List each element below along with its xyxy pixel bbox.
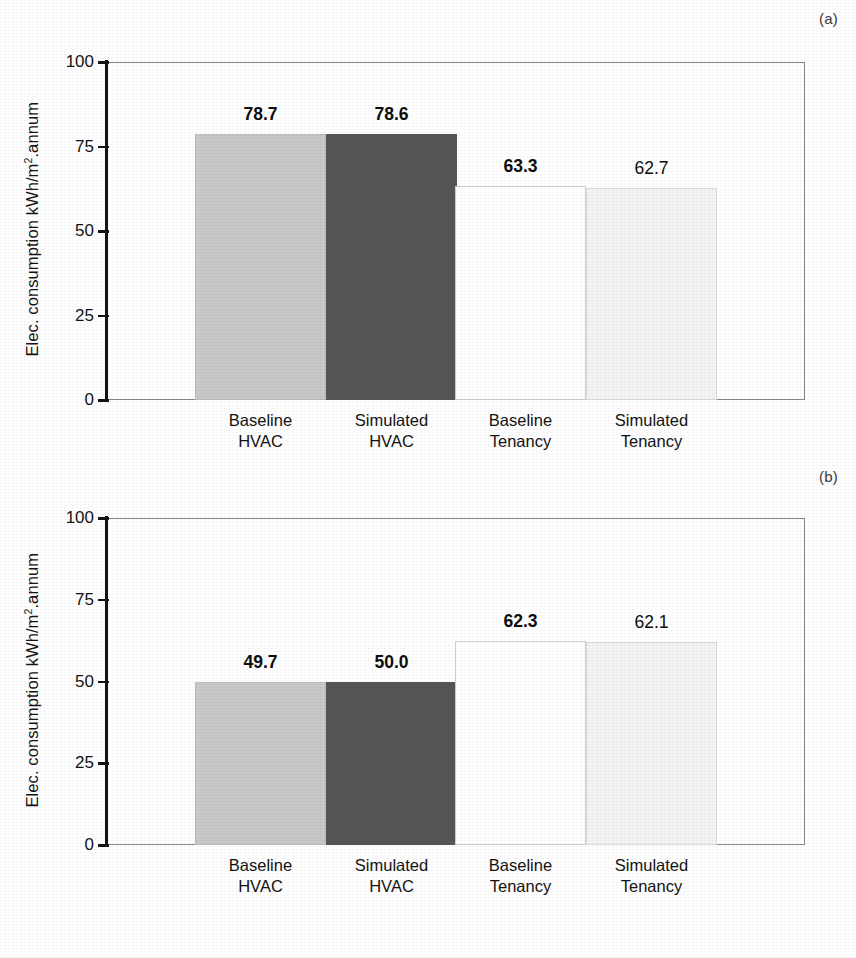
chart-panel-b: (b) Elec. consumption kWh/m2.annum 100 7… — [0, 458, 856, 958]
value-label-baseline-hvac: 49.7 — [195, 652, 326, 673]
y-tick-label-b-75: 75 — [48, 590, 94, 610]
y-axis-title-superscript-b: 2 — [22, 608, 34, 614]
figure-root: (a) Elec. consumption kWh/m2.annum 100 7… — [0, 0, 856, 958]
y-tick-label-a-100: 100 — [48, 52, 94, 72]
y-axis-title-text-b: Elec. consumption kWh/m — [23, 614, 41, 807]
value-label-simulated-hvac: 78.6 — [326, 104, 457, 125]
bar-baseline-hvac[interactable] — [195, 682, 326, 845]
panel-label-a: (a) — [819, 10, 838, 27]
x-label-simulated-tenancy: SimulatedTenancy — [572, 855, 731, 897]
y-tick-label-a-0: 0 — [48, 390, 94, 410]
value-label-simulated-tenancy: 62.7 — [586, 158, 717, 179]
y-axis-title-tail-b: .annum — [23, 552, 41, 608]
bar-baseline-hvac[interactable] — [195, 134, 326, 400]
y-tick-label-a-50: 50 — [48, 221, 94, 241]
y-tick-label-b-50: 50 — [48, 672, 94, 692]
y-tick-label-b-0: 0 — [48, 835, 94, 855]
bar-simulated-hvac[interactable] — [326, 682, 457, 846]
value-label-baseline-hvac: 78.7 — [195, 104, 326, 125]
value-label-simulated-tenancy: 62.1 — [586, 612, 717, 633]
y-axis-title-tail-a: .annum — [23, 102, 41, 158]
value-label-simulated-hvac: 50.0 — [326, 652, 457, 673]
y-tick-label-a-25: 25 — [48, 306, 94, 326]
y-tick-label-b-100: 100 — [48, 508, 94, 528]
value-label-baseline-tenancy: 63.3 — [455, 156, 586, 177]
y-axis-title-b: Elec. consumption kWh/m2.annum — [22, 510, 43, 850]
y-tick-label-b-25: 25 — [48, 753, 94, 773]
bar-simulated-hvac[interactable] — [326, 134, 457, 400]
y-axis-title-a: Elec. consumption kWh/m2.annum — [22, 59, 43, 399]
bar-simulated-tenancy[interactable] — [586, 188, 717, 400]
y-axis-title-text-a: Elec. consumption kWh/m — [23, 164, 41, 357]
x-label-simulated-tenancy: SimulatedTenancy — [572, 410, 731, 452]
bar-group-b — [107, 518, 805, 845]
bar-baseline-tenancy[interactable] — [455, 641, 586, 845]
y-axis-title-superscript-a: 2 — [22, 158, 34, 164]
value-label-baseline-tenancy: 62.3 — [455, 611, 586, 632]
bar-baseline-tenancy[interactable] — [455, 186, 586, 400]
bar-simulated-tenancy[interactable] — [586, 642, 717, 845]
y-tick-label-a-75: 75 — [48, 137, 94, 157]
panel-label-b: (b) — [819, 468, 838, 485]
chart-panel-a: (a) Elec. consumption kWh/m2.annum 100 7… — [0, 0, 856, 479]
